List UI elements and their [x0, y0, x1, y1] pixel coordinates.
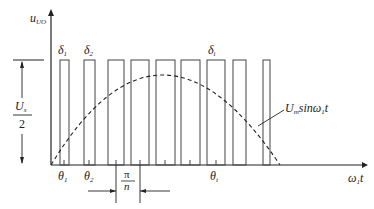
theta-1-label: θ1	[58, 169, 67, 184]
x-axis-arrow-icon	[362, 162, 368, 168]
period-label-numerator: π	[124, 168, 130, 180]
arrow-down-icon	[20, 157, 24, 164]
pulse	[181, 60, 200, 165]
delta-1-label: δ1	[58, 43, 67, 58]
delta-2-label: δ2	[84, 43, 94, 58]
arrow-right-icon	[110, 189, 116, 193]
pulse	[207, 60, 225, 165]
x-axis-label: ω1t	[348, 171, 364, 186]
curve-label: Umsinω1t	[285, 101, 329, 116]
arrow-up-icon	[20, 61, 24, 68]
delta-i-label: δi	[208, 43, 216, 58]
theta-2-label: θ2	[84, 169, 94, 184]
pulse	[263, 60, 270, 165]
y-axis-label: uUO	[30, 11, 46, 26]
arrow-left-icon	[140, 189, 146, 193]
pulse	[60, 60, 69, 165]
pulse	[156, 60, 175, 165]
curve-leader-line	[258, 110, 284, 126]
pulse	[233, 60, 246, 165]
pulse	[131, 60, 149, 165]
amplitude-label-denominator: 2	[19, 117, 25, 131]
spwm-diagram: uUO Us 2 Umsinω1t δ1 δ2 δi θ1 θ2 θi	[0, 0, 374, 209]
y-axis-arrow-icon	[48, 9, 54, 16]
pulse	[108, 60, 124, 165]
pwm-pulses	[60, 60, 270, 165]
center-ticks	[64, 160, 216, 165]
theta-i-label: θi	[210, 169, 218, 184]
period-label-denominator: n	[124, 180, 130, 192]
